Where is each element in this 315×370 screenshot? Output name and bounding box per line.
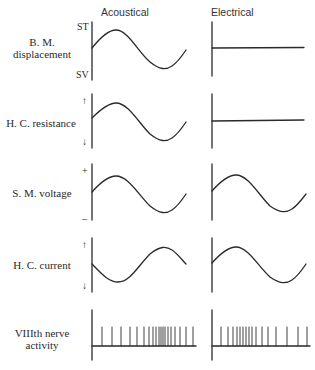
- trace-acoustical-hcc: [92, 247, 186, 282]
- waveform-diagram: [0, 0, 315, 370]
- spikes-acoustical: [102, 327, 193, 346]
- trace-electrical-smv: [212, 175, 306, 212]
- trace-electrical-hcr: [212, 120, 304, 121]
- trace-acoustical-bm: [92, 30, 186, 69]
- trace-electrical-hcc: [212, 247, 306, 283]
- spikes-electrical: [221, 327, 307, 346]
- trace-acoustical-smv: [92, 176, 186, 213]
- trace-acoustical-hcr: [92, 103, 186, 141]
- trace-electrical-bm: [212, 48, 304, 49]
